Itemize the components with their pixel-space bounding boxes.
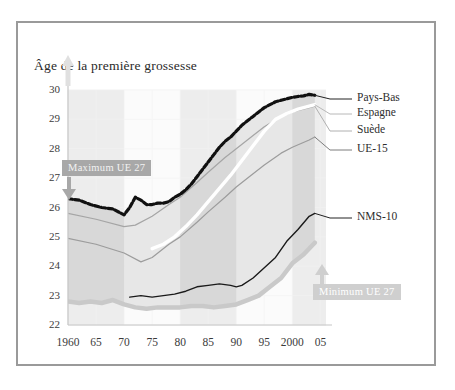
y-axis-tick-24: 24 [38, 259, 60, 271]
x-axis-tick-05: 05 [315, 336, 327, 348]
legend-label-su-de: Suède [357, 123, 385, 135]
chart-canvas: Âge de la première grossesse 30292827262… [0, 0, 455, 390]
x-axis-tick-85: 85 [202, 336, 214, 348]
chart-plot-area [0, 0, 455, 390]
y-axis-tick-28: 28 [38, 142, 60, 154]
y-axis-tick-29: 29 [38, 112, 60, 124]
y-axis-tick-26: 26 [38, 201, 60, 213]
y-axis-tick-25: 25 [38, 230, 60, 242]
x-axis-tick-90: 90 [231, 336, 243, 348]
legend-label-pays-bas: Pays-Bas [357, 91, 400, 103]
x-axis-tick-2000: 2000 [281, 336, 304, 348]
y-axis-tick-27: 27 [38, 171, 60, 183]
x-axis-tick-95: 95 [259, 336, 271, 348]
legend-label-ue-15: UE-15 [357, 142, 388, 154]
y-axis-tick-30: 30 [38, 83, 60, 95]
y-axis-arrow [62, 55, 74, 86]
minimum-band-label: Minimum UE 27 [313, 284, 401, 300]
x-axis-tick-1960: 1960 [57, 336, 80, 348]
x-axis-tick-75: 75 [146, 336, 158, 348]
maximum-band-label: Maximum UE 27 [62, 160, 151, 176]
legend-label-espagne: Espagne [357, 106, 396, 118]
y-axis-tick-23: 23 [38, 289, 60, 301]
y-axis-tick-22: 22 [38, 318, 60, 330]
legend-label-nms-10: NMS-10 [357, 210, 397, 222]
x-axis-tick-70: 70 [118, 336, 130, 348]
x-axis-tick-80: 80 [174, 336, 186, 348]
x-axis-tick-65: 65 [90, 336, 102, 348]
